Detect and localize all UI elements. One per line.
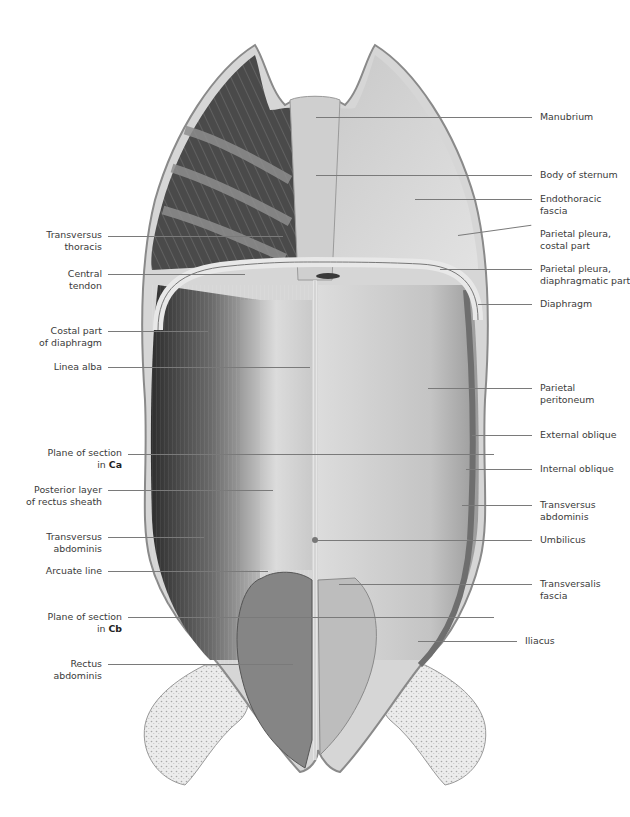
label-central-tendon: Central tendon xyxy=(68,268,102,292)
label-endothoracic-fascia: Endothoracic fascia xyxy=(540,193,601,217)
label-costal-part-diaphragm: Costal part of diaphragm xyxy=(39,325,102,349)
label-umbilicus: Umbilicus xyxy=(540,534,586,546)
posterior-rectus-sheath xyxy=(240,300,312,570)
sternum xyxy=(290,96,340,280)
label-manubrium: Manubrium xyxy=(540,111,593,123)
label-linea-alba: Linea alba xyxy=(54,361,102,373)
label-iliacus: Iliacus xyxy=(525,635,555,647)
label-plane-of-section-cb: Plane of section in Cb xyxy=(48,611,122,635)
label-transversus-thoracis: Transversus thoracis xyxy=(46,229,102,253)
label-transversalis-fascia: Transversalis fascia xyxy=(540,578,601,602)
label-internal-oblique: Internal oblique xyxy=(540,463,614,475)
label-parietal-peritoneum: Parietal peritoneum xyxy=(540,382,594,406)
label-transversus-abdominis-right: Transversus abdominis xyxy=(540,499,596,523)
label-parietal-pleura-diaphragmatic: Parietal pleura, diaphragmatic part xyxy=(540,263,630,287)
rectus-abdominis-muscle xyxy=(237,572,312,768)
label-posterior-rectus-sheath: Posterior layer of rectus sheath xyxy=(26,484,102,508)
label-arcuate-line: Arcuate line xyxy=(46,565,102,577)
label-body-of-sternum: Body of sternum xyxy=(540,169,618,181)
label-transversus-abdominis-left: Transversus abdominis xyxy=(46,531,102,555)
label-plane-of-section-ca: Plane of section in Ca xyxy=(48,447,122,471)
label-diaphragm: Diaphragm xyxy=(540,298,592,310)
label-rectus-abdominis: Rectus abdominis xyxy=(53,658,102,682)
label-external-oblique: External oblique xyxy=(540,429,616,441)
label-parietal-pleura-costal: Parietal pleura, costal part xyxy=(540,228,611,252)
anatomy-illustration xyxy=(0,0,630,817)
